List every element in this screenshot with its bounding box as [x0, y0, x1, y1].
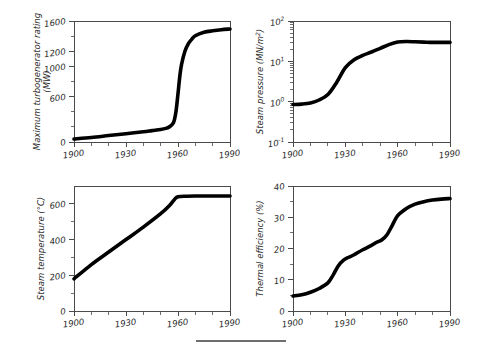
x-tick-label: 1960: [166, 148, 189, 161]
plot-frame: [293, 186, 450, 311]
y-tick-label: 102: [269, 15, 285, 28]
y-tick-label: 1600: [43, 16, 66, 29]
data-curve: [74, 29, 230, 139]
x-tick-label: 1930: [114, 317, 137, 330]
panel-steam-pressure: 190019301960199010-1100101102Steam press…: [254, 15, 461, 161]
y-tick-exponent: -1: [278, 136, 285, 144]
x-tick-label: 1990: [218, 317, 241, 330]
y-tick-label: 20: [273, 244, 285, 255]
y-axis-title-line2: (MW): [42, 70, 52, 92]
y-axis-title-text: Steam pressure (MN/m2): [254, 29, 265, 134]
x-tick-label: 1930: [334, 317, 357, 330]
x-tick-label: 1990: [438, 148, 461, 161]
x-tick-label: 1900: [62, 148, 85, 161]
y-axis-title-text: Steam temperature (°C): [36, 197, 46, 300]
y-tick-label: 100: [269, 95, 285, 108]
panel-turbogenerator-rating: 19001930196019900600100012001600Maximum …: [32, 12, 241, 160]
x-tick-label: 1960: [386, 148, 409, 161]
y-tick-label: 1200: [43, 46, 66, 59]
y-tick-exponent: 2: [280, 15, 285, 22]
y-axis-title-main: Steam pressure (MN/m: [255, 36, 265, 134]
x-tick-label: 1990: [218, 148, 241, 161]
x-tick-label: 1960: [166, 317, 189, 330]
y-tick-label: 0: [279, 306, 286, 317]
x-tick-label: 1900: [62, 317, 85, 330]
x-tick-label: 1990: [438, 317, 461, 330]
data-curve: [74, 196, 230, 279]
x-tick-label: 1930: [114, 148, 137, 161]
y-axis-title: Thermal efficiency (%): [255, 200, 265, 296]
y-tick-label: 30: [273, 212, 285, 223]
y-axis-title-text: Thermal efficiency (%): [255, 200, 265, 296]
figure-panel-grid: 19001930196019900600100012001600Maximum …: [0, 0, 480, 356]
plot-frame: [74, 21, 230, 142]
y-tick-label: 200: [49, 270, 66, 282]
y-axis-title-tail: ): [255, 29, 265, 33]
y-tick-label: 10-1: [267, 136, 285, 150]
y-tick-label: 10: [273, 275, 285, 286]
y-axis-title: Maximum turbogenerator rating(MW): [32, 12, 52, 150]
x-tick-label: 1930: [334, 148, 357, 161]
x-tick-label: 1900: [281, 148, 304, 161]
y-tick-label: 101: [269, 55, 285, 68]
plot-frame: [74, 186, 230, 311]
y-axis-title: Steam temperature (°C): [36, 197, 46, 300]
y-axis-title: Steam pressure (MN/m2): [254, 29, 265, 134]
data-curve: [293, 42, 450, 105]
y-tick-label: 400: [49, 235, 66, 247]
panel-steam-temperature: 19001930196019900200400600Steam temperat…: [36, 186, 241, 329]
y-tick-label: 40: [273, 181, 285, 192]
plot-frame: [293, 21, 450, 142]
multi-panel-chart: 19001930196019900600100012001600Maximum …: [0, 0, 480, 356]
y-tick-label: 600: [49, 199, 66, 211]
panel-thermal-efficiency: 1900193019601990010203040Thermal efficie…: [255, 181, 461, 329]
x-tick-label: 1900: [281, 317, 304, 330]
y-axis-title-line1: Maximum turbogenerator rating: [32, 12, 42, 150]
y-tick-label: 0: [60, 137, 67, 148]
y-tick-exponent: 1: [280, 55, 285, 62]
data-curve: [293, 199, 450, 297]
y-tick-label: 0: [60, 306, 67, 317]
y-tick-exponent: 0: [280, 95, 285, 102]
x-tick-label: 1960: [386, 317, 409, 330]
